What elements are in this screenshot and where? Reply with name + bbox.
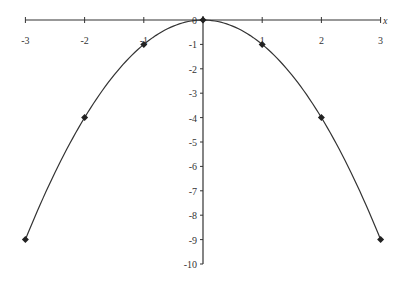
y-tick-label: -4 <box>189 113 197 124</box>
y-tick-label: -8 <box>189 210 197 221</box>
y-tick-label: -6 <box>189 161 197 172</box>
data-point-marker <box>318 114 325 121</box>
x-tick-label: 2 <box>319 35 324 46</box>
y-tick-label: -3 <box>189 88 197 99</box>
parabola-chart: -3-2-11230-1-2-3-4-5-6-7-8-9-10 x <box>0 0 405 283</box>
y-tick-label: -10 <box>184 259 197 270</box>
data-point-marker <box>81 114 88 121</box>
y-tick-label: -5 <box>189 137 197 148</box>
x-axis-label: x <box>382 15 388 26</box>
y-tick-label: -2 <box>189 64 197 75</box>
data-point-marker <box>200 17 207 24</box>
data-point-marker <box>22 236 29 243</box>
y-tick-label: -7 <box>189 186 197 197</box>
x-tick-label: -2 <box>80 35 88 46</box>
axes: -3-2-11230-1-2-3-4-5-6-7-8-9-10 <box>21 15 383 270</box>
y-tick-label: -1 <box>189 39 197 50</box>
data-point-marker <box>377 236 384 243</box>
x-tick-label: 3 <box>378 35 383 46</box>
x-tick-label: -3 <box>21 35 29 46</box>
y-tick-label: -9 <box>189 235 197 246</box>
